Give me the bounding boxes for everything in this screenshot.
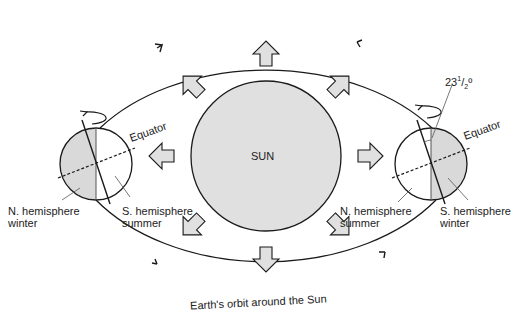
ray-arrow-right-icon <box>358 143 383 169</box>
rotation-arrow-icon <box>421 106 441 118</box>
ray-arrow-up-right-icon <box>322 67 358 103</box>
left-north-label: N. hemisphere winter <box>8 205 80 229</box>
orbit-arrow-top-right-icon <box>357 40 362 47</box>
right-north-label: N. hemisphere summer <box>340 205 412 229</box>
rotation-arrow-icon <box>86 112 106 124</box>
ray-arrow-down-icon <box>253 247 279 272</box>
earth-right <box>392 85 470 204</box>
orbit-arrow-bottom-left-icon <box>152 259 157 264</box>
right-south-label: S. hemisphere winter <box>440 205 511 229</box>
orbit-arrow-bottom-right-icon <box>379 252 385 258</box>
ray-arrow-up-left-icon <box>174 67 210 103</box>
sun-label: SUN <box>251 150 274 162</box>
earth-left <box>58 111 135 204</box>
tilt-angle-label: 231/2º <box>445 73 472 93</box>
ray-arrow-left-icon <box>149 143 174 169</box>
left-south-label: S. hemisphere summer <box>122 205 193 229</box>
orbit-arrow-top-left-icon <box>155 44 162 52</box>
ray-arrow-up-icon <box>253 41 279 66</box>
